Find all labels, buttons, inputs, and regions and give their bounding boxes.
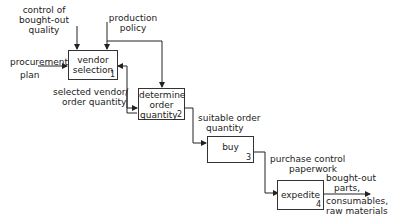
- label-line: plan: [10, 70, 68, 80]
- label-line: purchase control: [270, 154, 345, 164]
- label-suitable-order-quantity: suitable order quantity: [198, 113, 261, 133]
- label-line: bought-out: [18, 15, 70, 25]
- label-control-of-quality: control of bought-out quality: [18, 5, 70, 35]
- box-vendor-selection: vendor selection 1: [68, 50, 118, 80]
- label-line: parts,: [326, 183, 388, 193]
- label-line: control of: [18, 5, 70, 15]
- box-number: 2: [177, 110, 182, 119]
- label-line: quantity: [198, 123, 261, 133]
- label-line: order quantity: [53, 97, 128, 107]
- label-line: production: [108, 13, 158, 23]
- label-line: quality: [18, 25, 70, 35]
- box-number: 3: [246, 153, 251, 162]
- label-line: selected vendor/: [53, 87, 128, 97]
- label-output: bought-out parts, consumables, raw mater…: [326, 173, 388, 216]
- label-line: procurement: [10, 57, 68, 67]
- box-label: vendor: [69, 55, 117, 65]
- label-line: consumables,: [326, 196, 388, 206]
- box-label: expedite: [278, 190, 323, 200]
- label-line: bought-out: [326, 173, 388, 183]
- label-selected-vendor: selected vendor/ order quantity: [53, 87, 128, 107]
- box-label: order: [139, 100, 184, 110]
- label-procurement-plan: procurement plan: [10, 57, 68, 80]
- label-line: policy: [108, 23, 158, 33]
- box-determine-order-quantity: determine order quantity 2: [138, 88, 185, 120]
- label-line: raw materials: [326, 206, 388, 216]
- box-label: determine: [139, 90, 184, 100]
- box-buy: buy 3: [207, 136, 254, 163]
- box-label: buy: [208, 142, 253, 152]
- box-expedite: expedite 4: [277, 180, 324, 210]
- arrow-selected-vendor: [127, 90, 137, 108]
- label-production-policy: production policy: [108, 13, 158, 33]
- box-number: 1: [110, 70, 115, 79]
- label-line: suitable order: [198, 113, 261, 123]
- box-number: 4: [316, 200, 321, 209]
- label-purchase-control: purchase control paperwork: [270, 154, 345, 174]
